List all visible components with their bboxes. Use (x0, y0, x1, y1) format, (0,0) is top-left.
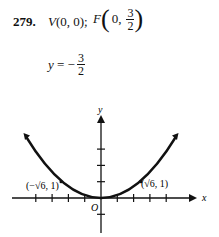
x-axis-label: x (201, 192, 207, 203)
point-left-label: (−√6, 1) (26, 180, 59, 192)
parabola-graph: x y O (−√6, 1) (√6, 1) (0, 0, 219, 237)
y-axis-label: y (97, 104, 103, 115)
point-right-label: (√6, 1) (141, 178, 168, 190)
origin-label: O (91, 202, 98, 213)
point-left (60, 180, 63, 183)
